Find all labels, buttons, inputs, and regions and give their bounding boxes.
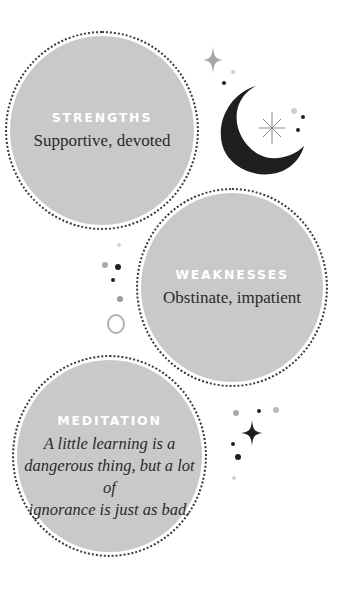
dot-icon [296, 128, 300, 132]
dot-icon [257, 409, 261, 413]
dot-icon [273, 407, 279, 413]
weaknesses-card: WEAKNESSES Obstinate, impatient [136, 188, 328, 387]
starburst-icon [258, 112, 286, 144]
dot-icon [115, 264, 121, 270]
weaknesses-title: WEAKNESSES [175, 268, 289, 282]
dot-icon [231, 70, 235, 74]
weaknesses-text: Obstinate, impatient [163, 288, 301, 308]
meditation-card: MEDITATION A little learning is a danger… [12, 355, 207, 557]
dot-icon [231, 442, 235, 446]
dot-icon [291, 108, 297, 114]
dot-icon [233, 410, 239, 416]
ring-icon [107, 314, 125, 334]
dot-icon [117, 243, 121, 247]
strengths-card: STRENGTHS Supportive, devoted [5, 31, 199, 230]
dot-icon [235, 454, 241, 460]
dot-icon [117, 296, 123, 302]
sparkle-icon [203, 46, 223, 74]
strengths-title: STRENGTHS [52, 111, 152, 125]
meditation-quote: A little learning is a dangerous thing, … [17, 433, 202, 521]
dot-icon [232, 476, 236, 480]
dot-icon [102, 262, 108, 268]
sparkle-icon [241, 420, 263, 446]
meditation-title: MEDITATION [57, 414, 162, 428]
dot-icon [111, 278, 115, 282]
strengths-circle: STRENGTHS Supportive, devoted [10, 36, 194, 225]
strengths-text: Supportive, devoted [34, 131, 171, 151]
weaknesses-circle: WEAKNESSES Obstinate, impatient [141, 193, 323, 382]
meditation-circle: MEDITATION A little learning is a danger… [17, 360, 202, 552]
dot-icon [301, 115, 305, 119]
